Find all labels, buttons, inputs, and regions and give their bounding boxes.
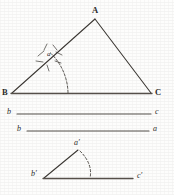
figure-canvas (0, 0, 174, 195)
segment-b-c-right-label: c (155, 108, 159, 116)
vertex-label-A: A (92, 6, 98, 15)
vertex-label-b-prime: b′ (31, 170, 37, 178)
segment-b-a-left-label: b (17, 125, 21, 133)
vertex-label-c-prime: c′ (137, 172, 142, 180)
vertex-label-a-prime: a′ (74, 139, 80, 147)
segment-b-a-right-label: a (153, 125, 157, 133)
side-b-prime-a-prime (44, 150, 78, 178)
angle-arc-at-B (50, 53, 68, 93)
side-AC (95, 19, 151, 93)
vertex-label-C: C (155, 88, 161, 97)
triangle-ABC-outline (11, 19, 152, 94)
geometry-figure: A B C a b c b a a′ b′ c′ (0, 0, 174, 195)
segment-b-c-left-label: b (7, 108, 11, 116)
dashed-construction-arc (80, 151, 91, 178)
angle-label-a: a (47, 51, 51, 58)
vertex-label-B: B (2, 88, 8, 97)
triangle-lower-outline (43, 150, 133, 179)
